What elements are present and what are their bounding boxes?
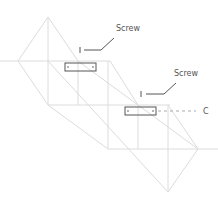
screw-bottom-icon xyxy=(141,83,176,97)
bracket-top xyxy=(65,63,96,71)
dimension-c-label: C xyxy=(203,107,209,116)
screw-label-bottom: Screw xyxy=(174,69,199,78)
bracket-bottom xyxy=(125,107,156,115)
screw-top-icon xyxy=(80,38,114,53)
screw-label-top: Screw xyxy=(116,24,141,33)
stair-diagram: Screw Screw C xyxy=(0,0,218,202)
